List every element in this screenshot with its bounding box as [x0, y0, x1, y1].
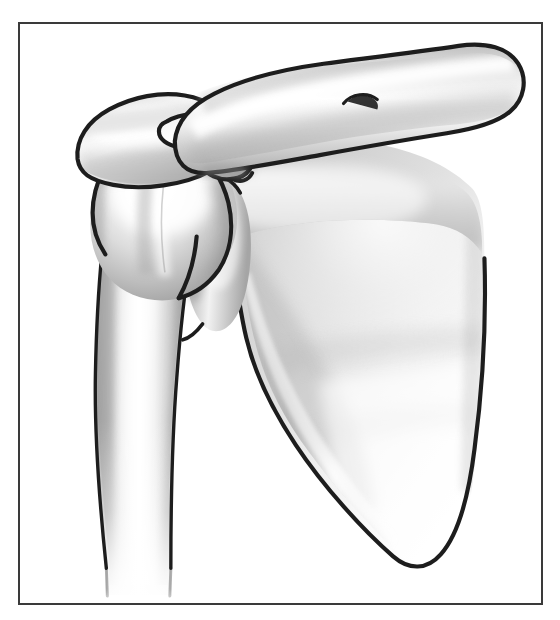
shoulder-anatomy-illustration	[20, 24, 541, 603]
illustration-frame	[18, 22, 543, 605]
figure-root	[0, 0, 560, 620]
